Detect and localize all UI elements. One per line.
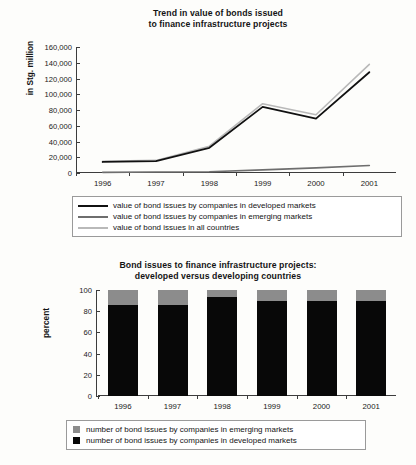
line-chart-x-tick: 1997 — [147, 179, 164, 188]
line-chart-y-tick: 40,000 — [49, 137, 72, 146]
line-legend-swatch-1 — [78, 205, 108, 207]
bar-chart-x-tick: 2000 — [313, 402, 330, 411]
line-chart-legend-label: value of bond issues by companies in dev… — [113, 200, 316, 211]
line-chart-legend: value of bond issues by companies in dev… — [72, 196, 402, 237]
line-chart-y-tick: 160,000 — [45, 43, 72, 52]
bar-segment-developed — [257, 301, 287, 396]
bar-segment-emerging — [108, 290, 138, 305]
line-chart-y-tick: 0 — [68, 169, 72, 178]
bar-segment-emerging — [207, 290, 237, 297]
bar-segment-developed — [207, 297, 237, 396]
line-chart: Trend in value of bonds issued to financ… — [0, 0, 416, 250]
line-chart-x-ticks: 199619971998199920002001 — [76, 176, 396, 188]
bar-chart-legend-label: number of bond issues by companies in de… — [86, 435, 297, 446]
table-row — [158, 290, 188, 396]
bar-segment-emerging — [307, 290, 337, 301]
line-chart-x-tick: 2001 — [361, 179, 378, 188]
bar-chart-y-tick: 60 — [84, 328, 92, 337]
line-chart-y-tick: 20,000 — [49, 153, 72, 162]
figure-page: Trend in value of bonds issued to financ… — [0, 0, 416, 465]
bar-chart-title-line1: Bond issues to finance infrastructure pr… — [58, 260, 378, 271]
line-chart-y-tick: 140,000 — [45, 58, 72, 67]
bar-chart-y-tick: 40 — [84, 349, 92, 358]
table-row — [307, 290, 337, 396]
line-chart-title-line1: Trend in value of bonds issued — [68, 8, 368, 19]
table-row — [257, 290, 287, 396]
line-chart-y-tick: 60,000 — [49, 121, 72, 130]
line-chart-legend-label: value of bond issues by companies in eme… — [113, 211, 312, 222]
bar-legend-swatch-1 — [73, 426, 80, 433]
table-row — [207, 290, 237, 396]
line-chart-title-line2: to finance infrastructure projects — [68, 19, 368, 30]
line-chart-legend-item: value of bond issues in all countries — [78, 222, 395, 233]
bar-chart-legend-item: number of bond issues by companies in em… — [72, 424, 359, 435]
line-chart-x-tick: 1996 — [94, 179, 111, 188]
stacked-bar-chart: Bond issues to finance infrastructure pr… — [0, 250, 416, 465]
line-chart-legend-item: value of bond issues by companies in dev… — [78, 200, 395, 211]
line-legend-swatch-3 — [78, 227, 108, 229]
bar-chart-y-tick: 0 — [88, 392, 92, 401]
line-chart-y-tick: 100,000 — [45, 90, 72, 99]
line-chart-plot-area — [76, 47, 396, 173]
line-series-3 — [103, 64, 370, 161]
bar-chart-x-tick: 1998 — [213, 402, 230, 411]
bar-chart-legend-label: number of bond issues by companies in em… — [86, 424, 293, 435]
bar-segment-developed — [158, 305, 188, 396]
bar-chart-title-line2: developed versus developing countries — [58, 271, 378, 282]
line-chart-legend-label: value of bond issues in all countries — [113, 222, 239, 233]
table-row — [108, 290, 138, 396]
bar-chart-legend: number of bond issues by companies in em… — [66, 420, 366, 450]
table-row — [356, 290, 386, 396]
line-chart-series-svg — [76, 47, 396, 173]
bar-chart-x-tick: 2001 — [362, 402, 379, 411]
bar-segment-emerging — [257, 290, 287, 301]
line-chart-y-ticks: 160,000140,000120,000100,00080,00060,000… — [0, 47, 72, 173]
bar-chart-y-axis-spine — [96, 290, 97, 396]
line-chart-y-tick: 80,000 — [49, 106, 72, 115]
bar-chart-x-tick: 1997 — [164, 402, 181, 411]
bar-chart-x-ticks: 199619971998199920002001 — [98, 399, 396, 411]
line-series-1 — [103, 72, 370, 162]
bar-chart-plot-area — [98, 290, 396, 396]
bar-chart-legend-item: number of bond issues by companies in de… — [72, 435, 359, 446]
bar-legend-swatch-2 — [73, 437, 80, 444]
line-chart-legend-item: value of bond issues by companies in eme… — [78, 211, 395, 222]
bar-segment-emerging — [356, 290, 386, 301]
line-chart-x-tick: 2000 — [307, 179, 324, 188]
bar-chart-y-tick: 100 — [79, 286, 92, 295]
line-chart-y-tick: 120,000 — [45, 74, 72, 83]
bar-chart-x-tick: 1996 — [114, 402, 131, 411]
bar-segment-developed — [307, 301, 337, 396]
bar-chart-x-tick: 1999 — [263, 402, 280, 411]
bar-segment-developed — [356, 301, 386, 396]
line-legend-swatch-2 — [78, 216, 108, 218]
bar-chart-y-tick: 20 — [84, 370, 92, 379]
bar-chart-y-tick: 80 — [84, 307, 92, 316]
bar-segment-developed — [108, 305, 138, 396]
bar-segment-emerging — [158, 290, 188, 305]
line-series-2 — [103, 166, 370, 173]
bar-chart-y-ticks: 100806040200 — [20, 290, 92, 396]
bar-chart-title: Bond issues to finance infrastructure pr… — [58, 260, 378, 282]
line-chart-x-tick: 1999 — [254, 179, 271, 188]
line-chart-title: Trend in value of bonds issued to financ… — [68, 8, 368, 30]
line-chart-x-tick: 1998 — [201, 179, 218, 188]
